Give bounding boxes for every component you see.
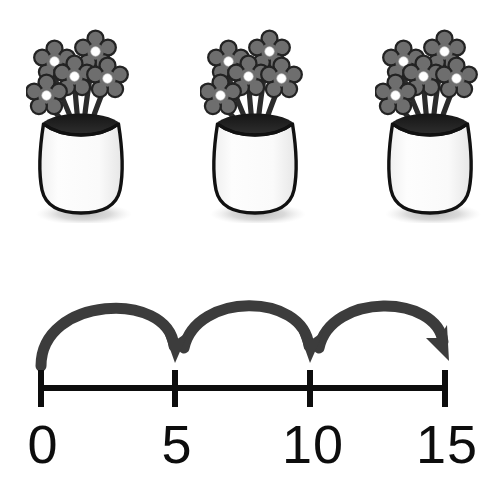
- vase-2: [200, 31, 306, 225]
- jump-arc-1: [41, 308, 174, 366]
- tick-label-10: 10: [282, 414, 344, 474]
- vase-1: [26, 31, 132, 225]
- worksheet-canvas: 0 5 10 15: [0, 0, 501, 502]
- tick-label-0: 0: [27, 414, 58, 474]
- jump-arcs: [41, 306, 443, 366]
- vase-3: [375, 31, 481, 225]
- number-line-diagram: 0 5 10 15: [0, 250, 501, 502]
- flower-vase-group: [0, 0, 501, 250]
- number-line-svg: 0 5 10 15: [0, 250, 501, 502]
- flower-vase-illustration: [0, 0, 501, 250]
- tick-label-5: 5: [161, 414, 192, 474]
- tick-label-15: 15: [416, 414, 478, 474]
- jump-arc-3: [319, 306, 443, 348]
- jump-arc-2: [184, 306, 309, 348]
